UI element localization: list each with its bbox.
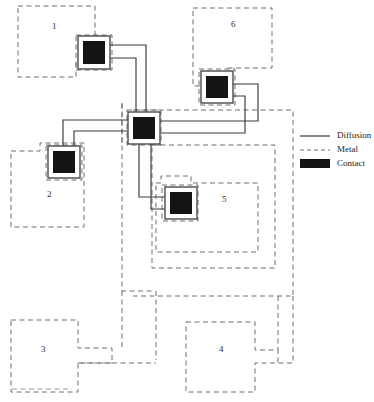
legend-label-contact: Contact bbox=[337, 159, 365, 168]
contact-region-2[interactable] bbox=[48, 146, 80, 178]
legend-label-diffusion: Diffusion bbox=[337, 131, 371, 140]
metal-trunk-region-4-b bbox=[278, 296, 293, 363]
contact-region-1[interactable] bbox=[78, 36, 110, 69]
region-label-6: 6 bbox=[231, 20, 236, 29]
legend-label-metal: Metal bbox=[337, 145, 358, 154]
region-label-3: 3 bbox=[41, 345, 46, 354]
metal-region-3 bbox=[11, 320, 112, 392]
layout-vector-canvas bbox=[0, 0, 374, 402]
region-label-2: 2 bbox=[47, 190, 52, 199]
region-label-5: 5 bbox=[222, 195, 227, 204]
contact-region-6[interactable] bbox=[201, 71, 233, 103]
contact-rect-swatch bbox=[300, 159, 330, 168]
contact-region-5[interactable] bbox=[165, 187, 197, 219]
legend-swatches-group bbox=[300, 136, 330, 168]
diffusion-net-hub-contact-1-a bbox=[108, 45, 146, 114]
diffusion-net-hub-contact-2-a bbox=[63, 120, 130, 148]
layout-diagram-canvas: 1 2 3 4 5 6 Diffusion Metal Contact bbox=[0, 0, 374, 402]
region-label-1: 1 bbox=[52, 22, 57, 31]
diffusion-net-hub-contact-5-a bbox=[139, 142, 167, 197]
region-label-4: 4 bbox=[219, 345, 224, 354]
contact-hub[interactable] bbox=[128, 112, 160, 144]
metal-region-4 bbox=[186, 322, 278, 392]
metal-regions-group bbox=[11, 6, 293, 392]
